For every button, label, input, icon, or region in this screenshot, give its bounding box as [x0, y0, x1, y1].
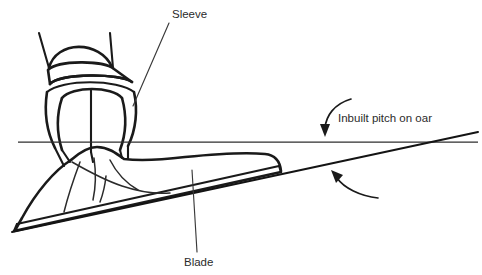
blade-group — [14, 147, 281, 231]
pitch-bottom-arrow-curve — [337, 178, 378, 198]
lower-shaft-centre — [91, 152, 93, 162]
inbuilt-pitch-label: Inbuilt pitch on oar — [338, 112, 432, 124]
blade-label: Blade — [184, 256, 213, 268]
lower-shaft-inner-left — [62, 150, 70, 162]
blade-edge-inner — [17, 166, 279, 224]
collar-rim-top — [48, 62, 132, 84]
blade-contour-5 — [100, 176, 106, 202]
sleeve-outer-left — [46, 92, 55, 148]
diagram-canvas: Sleeve Blade Inbuilt pitch on oar — [0, 0, 482, 275]
sleeve-label: Sleeve — [172, 8, 207, 20]
blade-contour-3 — [64, 162, 80, 212]
shaft-left-edge — [39, 33, 49, 68]
pitch-bottom-arrow-head — [331, 170, 343, 183]
pitch-top-arrow-head — [320, 124, 330, 137]
blade-contour-1 — [72, 162, 170, 193]
blade-back-outline — [71, 147, 281, 171]
blade-leader-line — [192, 170, 197, 252]
oar-pitch-diagram: Sleeve Blade Inbuilt pitch on oar — [0, 0, 482, 275]
inbuilt-pitch-line — [12, 132, 478, 232]
blade-contour-2 — [93, 158, 95, 200]
sleeve-outer-right — [128, 92, 136, 146]
pitch-bottom-arrow — [331, 170, 378, 198]
sleeve-leader-line — [133, 23, 169, 106]
blade-contour-4 — [110, 160, 138, 190]
sleeve-collar-group — [46, 62, 136, 152]
